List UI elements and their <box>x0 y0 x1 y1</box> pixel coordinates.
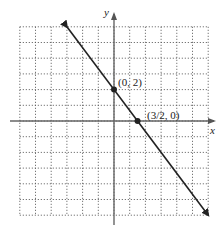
point-y-intercept <box>111 87 117 93</box>
y-axis-label: y <box>103 6 109 18</box>
point-y-intercept-label: (0, 2) <box>118 76 142 89</box>
x-axis-label: x <box>209 124 215 136</box>
point-x-intercept <box>135 118 141 124</box>
point-x-intercept-label: (3/2, 0) <box>147 109 180 122</box>
coordinate-plane: x y (0, 2) (3/2, 0) <box>0 0 224 231</box>
